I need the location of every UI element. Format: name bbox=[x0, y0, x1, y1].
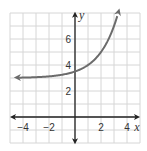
y-tick-label: 6 bbox=[65, 34, 71, 45]
x-axis-label: x bbox=[133, 120, 140, 134]
y-tick-label: 4 bbox=[65, 60, 71, 71]
y-axis-label: y bbox=[78, 8, 85, 22]
exponential-graph: −4−224246xy bbox=[0, 0, 147, 151]
y-tick-label: 2 bbox=[65, 86, 71, 97]
curve-top-arrow-icon bbox=[114, 7, 123, 16]
x-tick-label: 2 bbox=[98, 122, 104, 133]
x-tick-label: 4 bbox=[124, 122, 130, 133]
x-tick-label: −4 bbox=[17, 122, 29, 133]
x-tick-label: −2 bbox=[43, 122, 55, 133]
